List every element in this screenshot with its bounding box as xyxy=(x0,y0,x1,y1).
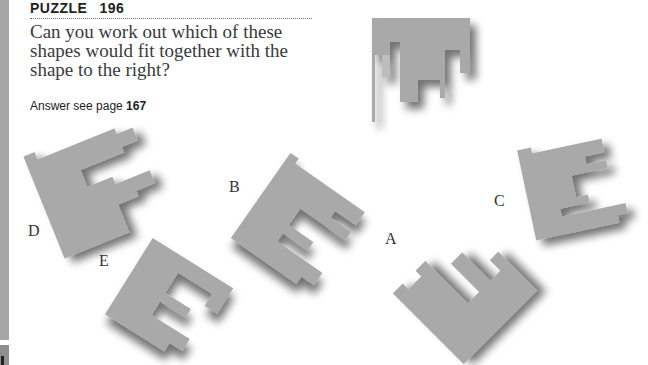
answer-page: 167 xyxy=(126,99,146,113)
option-shape-b[interactable] xyxy=(232,155,372,290)
answer-prefix: Answer see page xyxy=(30,99,123,113)
page-edge-tab xyxy=(0,345,9,365)
puzzle-question: Can you work out which of these shapes w… xyxy=(30,22,330,79)
option-shape-d[interactable] xyxy=(25,115,175,255)
puzzle-header: PUZZLE196 xyxy=(30,0,312,19)
option-label-b: B xyxy=(229,178,240,196)
option-label-e: E xyxy=(99,252,109,270)
page-edge-bar xyxy=(0,0,9,340)
reference-shape xyxy=(360,10,500,140)
option-label-d: D xyxy=(28,222,40,240)
puzzle-header-label: PUZZLE xyxy=(30,0,87,16)
option-shape-c[interactable] xyxy=(508,125,648,250)
option-shape-e[interactable] xyxy=(105,245,235,365)
puzzle-number: 196 xyxy=(99,0,124,16)
answer-reference: Answer see page 167 xyxy=(30,99,146,113)
option-label-a: A xyxy=(385,230,397,248)
option-label-c: C xyxy=(494,192,505,210)
